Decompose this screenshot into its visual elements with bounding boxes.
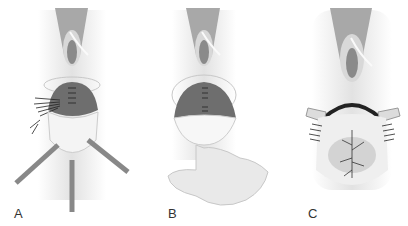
panel-a: A (0, 0, 136, 226)
vaginal-opening (199, 40, 209, 64)
panel-a-label: A (14, 206, 23, 221)
panel-a-illustration (0, 0, 136, 226)
vaginal-opening (346, 48, 358, 78)
panel-c: C (272, 0, 408, 226)
panel-c-label: C (308, 206, 317, 221)
panel-b: B (136, 0, 272, 226)
panel-b-label: B (168, 206, 177, 221)
vaginal-opening (67, 40, 77, 64)
panel-c-illustration (272, 0, 408, 226)
panel-b-illustration (136, 0, 272, 226)
